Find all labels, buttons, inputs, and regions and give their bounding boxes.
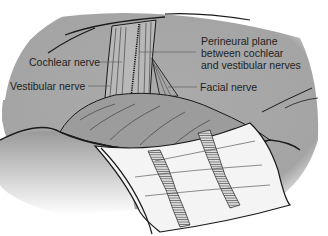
label-vestibular-nerve: Vestibular nerve: [10, 81, 85, 92]
nerve-bundle: [105, 20, 156, 98]
label-facial-nerve: Facial nerve: [200, 82, 257, 93]
label-cochlear-nerve: Cochlear nerve: [29, 57, 100, 68]
label-perineural-line3: and vestibular nerves: [201, 60, 301, 71]
anatomical-illustration: Cochlear nerve Vestibular nerve Perineur…: [0, 0, 328, 236]
illustration-drawing: [0, 0, 328, 236]
label-perineural-line2: between cochlear: [201, 48, 283, 59]
label-perineural-line1: Perineural plane: [201, 36, 277, 47]
